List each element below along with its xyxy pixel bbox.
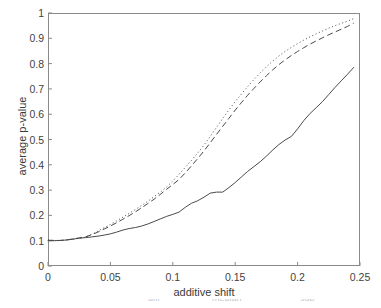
- y-tick-label: 0.2: [2, 210, 44, 221]
- y-tick-label: 0.1: [2, 236, 44, 247]
- data-curves: [48, 19, 354, 241]
- dotted-curve: [48, 19, 354, 241]
- plot-canvas: [0, 0, 381, 308]
- x-tick-label: 0: [20, 272, 76, 283]
- x-tick-label: 0.25: [332, 272, 381, 283]
- dashed-curve: [48, 23, 354, 240]
- y-tick-label: 0: [2, 261, 44, 272]
- y-axis-tick-marks: [48, 13, 52, 266]
- cut-off-caption-strip: diffmediansub: [0, 299, 381, 308]
- x-tick-label: 0.2: [270, 272, 326, 283]
- y-tick-label: 0.9: [2, 33, 44, 44]
- x-tick-label: 0.05: [82, 272, 138, 283]
- y-tick-label: 0.8: [2, 59, 44, 70]
- chart-figure: 00.10.20.30.40.50.60.70.80.91 00.050.10.…: [0, 0, 381, 308]
- caption-fragment: sub: [300, 299, 315, 303]
- x-tick-label: 0.15: [207, 272, 263, 283]
- y-tick-label: 1: [2, 8, 44, 19]
- x-tick-label: 0.1: [145, 272, 201, 283]
- y-axis-label: average p-value: [16, 76, 28, 196]
- x-axis-label: additive shift: [48, 286, 360, 298]
- caption-fragment: diff: [148, 299, 160, 303]
- x-axis-tick-labels: 00.050.10.150.20.25: [0, 272, 381, 286]
- caption-fragment: median: [212, 299, 242, 303]
- x-axis-tick-marks: [48, 262, 360, 266]
